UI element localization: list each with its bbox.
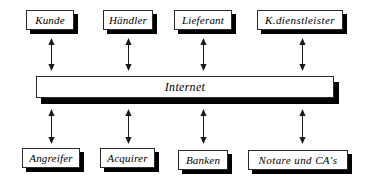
node-lieferant[interactable]: Lieferant (174, 10, 232, 30)
node-acquirer[interactable]: Acquirer (100, 148, 155, 168)
node-notare-und-cas[interactable]: Notare und CA's (248, 150, 348, 170)
node-label: Händler (109, 15, 147, 26)
connector-kdienstleister-internet (296, 38, 309, 71)
node-kdienstleister[interactable]: K.dienstleister (257, 10, 343, 30)
node-label: K.dienstleister (265, 15, 335, 26)
internet-bus-bar[interactable]: Internet (36, 76, 334, 98)
node-haendler[interactable]: Händler (103, 10, 153, 30)
connector-lieferant-internet (197, 38, 210, 71)
connector-internet-acquirer (122, 109, 135, 144)
internet-bus-label: Internet (165, 80, 205, 95)
node-label: Acquirer (107, 153, 147, 164)
node-kunde[interactable]: Kunde (26, 10, 74, 30)
connector-kunde-internet (45, 38, 58, 71)
node-label: Lieferant (182, 15, 224, 26)
node-label: Kunde (35, 15, 65, 26)
node-label: Notare und CA's (259, 155, 338, 166)
connector-internet-banken (197, 109, 210, 144)
node-label: Banken (186, 155, 220, 166)
connector-internet-notare (296, 109, 309, 144)
node-angreifer[interactable]: Angreifer (22, 148, 80, 168)
node-label: Angreifer (29, 153, 73, 164)
node-banken[interactable]: Banken (178, 150, 228, 170)
connector-haendler-internet (122, 38, 135, 71)
connector-internet-angreifer (45, 109, 58, 144)
network-architecture-diagram: Kunde Händler Lieferant K.dienstleister (0, 0, 371, 185)
